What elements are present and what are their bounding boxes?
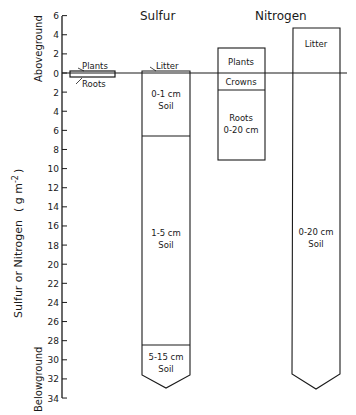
sulfur-soil3-depth: 5-15 cm: [149, 352, 184, 362]
nitrogen-roots-label: Roots: [229, 113, 253, 123]
sulfur-roots-label: Roots: [82, 79, 106, 89]
nitrogen-soil-label: Soil: [308, 239, 323, 249]
nitrogen-soil-depth: 0-20 cm: [299, 227, 334, 237]
y-tick-label: 30: [48, 355, 60, 365]
y-tick-label: 24: [48, 298, 60, 308]
nitrogen-litter-label: Litter: [305, 39, 328, 49]
y-tick-label: 26: [48, 317, 60, 327]
y-tick-label: 10: [48, 164, 60, 174]
sulfur-title: Sulfur: [140, 9, 175, 23]
sulfur-plant-bar: Plants Roots: [70, 61, 115, 89]
y-tick-label: 8: [53, 145, 59, 155]
y-tick-label: 2: [53, 88, 59, 98]
y-tick-label: 4: [53, 107, 59, 117]
y-tick-label: 20: [48, 260, 60, 270]
nitrogen-soil-column: Litter 0-20 cm Soil: [292, 28, 340, 389]
sulfur-litter-label: Litter: [156, 61, 179, 71]
y-tick-label: 22: [48, 279, 59, 289]
chart-canvas: 6420246810121416182022242628303234 Above…: [0, 0, 356, 415]
nitrogen-plant-column: Plants Crowns Roots 0-20 cm: [218, 48, 265, 160]
y-tick-label: 14: [48, 202, 60, 212]
y-tick-label: 16: [48, 221, 60, 231]
sulfur-plants-label: Plants: [82, 61, 108, 71]
sulfur-soil2-depth: 1-5 cm: [151, 228, 181, 238]
y-tick-label: 0: [53, 69, 59, 79]
aboveground-label: Aboveground: [33, 15, 44, 82]
nitrogen-crowns-label: Crowns: [225, 77, 257, 87]
y-tick-label: 12: [48, 183, 59, 193]
nitrogen-roots-depth: 0-20 cm: [224, 125, 259, 135]
y-axis-title: Sulfur or Nitrogen( g m-2): [11, 169, 25, 318]
sulfur-soil1-depth: 0-1 cm: [151, 89, 181, 99]
y-tick-label: 4: [53, 30, 59, 40]
sulfur-soil2-label: Soil: [158, 240, 173, 250]
y-tick-label: 6: [53, 11, 59, 21]
sulfur-soil-column: Litter 0-1 cm Soil 1-5 cm Soil 5-15 cm S…: [142, 61, 190, 388]
y-tick-label: 28: [48, 336, 60, 346]
sulfur-soil1-label: Soil: [158, 101, 173, 111]
y-axis-ticks: 6420246810121416182022242628303234: [48, 11, 67, 403]
y-tick-label: 32: [48, 374, 59, 384]
y-tick-label: 6: [53, 126, 59, 136]
y-tick-label: 2: [53, 49, 59, 59]
nitrogen-title: Nitrogen: [255, 9, 307, 23]
y-tick-label: 18: [48, 241, 60, 251]
nitrogen-plants-label: Plants: [228, 57, 254, 67]
sulfur-soil3-label: Soil: [158, 364, 173, 374]
belowground-label: Belowground: [33, 347, 44, 412]
y-tick-label: 34: [48, 394, 60, 404]
